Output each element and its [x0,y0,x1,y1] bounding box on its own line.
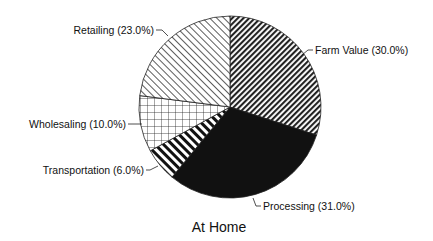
pie-slices [139,16,321,198]
label-processing: Processing (31.0%) [263,200,355,212]
leader-line-retailing [156,30,168,36]
chart-title: At Home [192,219,247,235]
label-wholesaling: Wholesaling (10.0%) [29,118,126,130]
leader-line-processing [253,198,261,206]
label-farm-value: Farm Value (30.0%) [315,44,408,56]
pie-chart-canvas: Farm Value (30.0%) Processing (31.0%) Tr… [0,0,433,241]
pie-chart: Farm Value (30.0%) Processing (31.0%) Tr… [0,0,433,241]
label-transportation: Transportation (6.0%) [43,164,144,176]
label-retailing: Retailing (23.0%) [73,24,154,36]
leader-line-transportation [146,166,158,170]
